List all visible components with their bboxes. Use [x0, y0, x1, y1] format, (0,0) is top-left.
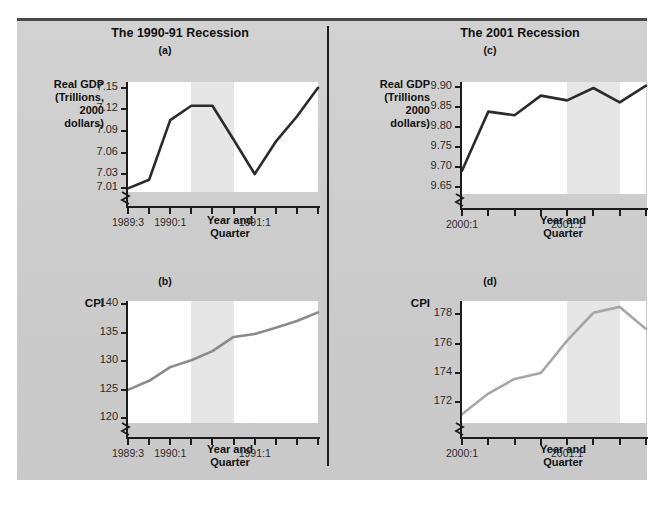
y-tick-a — [121, 152, 127, 154]
y-tick-label-d: 176 — [400, 336, 452, 348]
y-tick-label-d: 174 — [400, 365, 452, 377]
plot-area-d — [462, 301, 646, 423]
chart-panel-b: (b)CPIYear andQuarter1201251301351401989… — [0, 255, 330, 510]
y-axis-break-d — [454, 421, 466, 439]
y-tick-b — [121, 417, 127, 419]
x-tick-d — [487, 439, 489, 445]
x-tick-b — [148, 439, 150, 445]
y-tick-a — [121, 173, 127, 175]
x-tick-c — [514, 210, 516, 216]
x-tick-d — [592, 439, 594, 445]
y-tick-label-b: 130 — [66, 353, 118, 365]
x-tick-label-b: 1990:1 — [140, 447, 200, 459]
y-tick-c — [455, 186, 461, 188]
x-tick-a — [148, 208, 150, 214]
y-tick-b — [121, 360, 127, 362]
panel-letter-b: (b) — [45, 275, 285, 287]
y-tick-label-b: 140 — [66, 296, 118, 308]
y-tick-d — [455, 343, 461, 345]
x-tick-b — [254, 439, 256, 445]
x-tick-label-c: 2001:1 — [537, 218, 597, 230]
y-tick-a — [121, 87, 127, 89]
panel-letter-d: (d) — [370, 275, 610, 287]
y-tick-d — [455, 401, 461, 403]
x-tick-b — [233, 439, 235, 445]
x-tick-label-c: 2000:1 — [432, 218, 492, 230]
plot-area-b — [128, 301, 318, 423]
x-tick-d — [461, 439, 463, 445]
y-tick-label-b: 135 — [66, 325, 118, 337]
y-tick-label-c: 9.80 — [400, 119, 452, 131]
y-tick-label-c: 9.90 — [400, 79, 452, 91]
panel-letter-c: (c) — [370, 44, 610, 56]
series-line-a — [128, 82, 318, 192]
chart-panel-d: (d)CPIYear andQuarter1721741761782000:12… — [330, 255, 664, 510]
x-tick-d — [619, 439, 621, 445]
y-tick-label-a: 7.15 — [66, 80, 118, 92]
x-tick-c — [645, 210, 647, 216]
y-tick-c — [455, 146, 461, 148]
x-tick-c — [461, 210, 463, 216]
y-axis-break-a — [120, 190, 132, 208]
plot-area-c — [462, 82, 646, 194]
x-tick-c — [487, 210, 489, 216]
panel-letter-a: (a) — [45, 44, 285, 56]
y-tick-d — [455, 313, 461, 315]
x-tick-b — [190, 439, 192, 445]
x-tick-a — [127, 208, 129, 214]
x-tick-a — [233, 208, 235, 214]
x-tick-a — [296, 208, 298, 214]
x-tick-b — [211, 439, 213, 445]
x-tick-a — [190, 208, 192, 214]
x-tick-label-b: 1991:1 — [225, 447, 285, 459]
y-tick-c — [455, 106, 461, 108]
y-tick-label-c: 9.75 — [400, 139, 452, 151]
y-tick-a — [121, 108, 127, 110]
y-tick-label-d: 178 — [400, 306, 452, 318]
y-tick-label-b: 125 — [66, 382, 118, 394]
y-tick-d — [455, 372, 461, 374]
y-tick-a — [121, 187, 127, 189]
y-axis-line-d — [460, 301, 462, 437]
x-tick-c — [540, 210, 542, 216]
x-tick-a — [254, 208, 256, 214]
x-tick-c — [592, 210, 594, 216]
chart-panel-c: (c)Real GDP(Trillions2000dollars)Year an… — [330, 0, 664, 255]
x-tick-d — [645, 439, 647, 445]
y-tick-label-a: 7.12 — [66, 101, 118, 113]
x-tick-b — [275, 439, 277, 445]
x-tick-label-a: 1990:1 — [140, 216, 200, 228]
y-tick-label-c: 9.70 — [400, 159, 452, 171]
x-tick-b — [317, 439, 319, 445]
plot-area-a — [128, 82, 318, 192]
y-tick-b — [121, 303, 127, 305]
x-tick-a — [211, 208, 213, 214]
x-tick-b — [169, 439, 171, 445]
y-tick-label-a: 7.03 — [66, 166, 118, 178]
x-tick-b — [127, 439, 129, 445]
figure-root: The 1990-91 Recession The 2001 Recession… — [0, 0, 664, 510]
x-axis-line-a — [126, 206, 320, 208]
x-tick-label-d: 2001:1 — [537, 447, 597, 459]
series-line-b — [128, 301, 318, 423]
y-tick-c — [455, 126, 461, 128]
y-tick-label-b: 120 — [66, 410, 118, 422]
x-tick-label-d: 2000:1 — [432, 447, 492, 459]
x-tick-d — [514, 439, 516, 445]
y-axis-break-b — [120, 421, 132, 439]
chart-panel-a: (a)Real GDP(Trillions,2000dollars)Year a… — [0, 0, 330, 255]
y-tick-c — [455, 166, 461, 168]
y-tick-a — [121, 130, 127, 132]
x-axis-line-b — [126, 437, 320, 439]
y-axis-break-c — [454, 192, 466, 210]
x-tick-a — [169, 208, 171, 214]
y-tick-label-d: 172 — [400, 394, 452, 406]
y-tick-c — [455, 86, 461, 88]
x-tick-label-a: 1991:1 — [225, 216, 285, 228]
y-tick-b — [121, 389, 127, 391]
y-tick-label-a: 7.09 — [66, 123, 118, 135]
y-tick-label-a: 7.01 — [66, 180, 118, 192]
y-tick-b — [121, 332, 127, 334]
series-line-d — [462, 301, 646, 423]
x-tick-d — [540, 439, 542, 445]
